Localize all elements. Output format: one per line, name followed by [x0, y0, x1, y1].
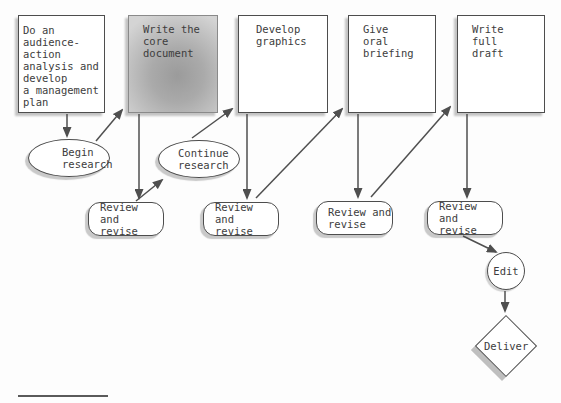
arrow-begin-research-to-write-core — [96, 110, 122, 141]
step-box-give-oral-briefing: Give oral briefing — [348, 15, 436, 113]
flowchart-figure: Do an audience- action analysis and deve… — [0, 0, 561, 403]
arrow-review-revise-2-to-give-briefing — [256, 109, 342, 198]
node-review-revise-4: Review and revise — [427, 201, 503, 235]
arrow-review-revise-4-to-edit — [463, 236, 496, 252]
node-label: Edit — [493, 265, 518, 277]
oval-continue-research: Continue research — [158, 140, 240, 178]
step-box-label: Write the core document — [143, 23, 203, 59]
oval-label: Continue research — [178, 147, 229, 171]
node-deliver: Deliver — [475, 315, 537, 377]
node-review-revise-3: Review and revise — [316, 201, 393, 235]
footnote-rule — [18, 395, 108, 397]
node-label: Review and revise — [439, 200, 502, 236]
oval-label: Begin research — [62, 146, 113, 170]
node-label: Review and revise — [328, 206, 391, 230]
node-review-revise-2: Review and revise — [203, 202, 279, 236]
arrow-review-revise-1-to-continue-research — [136, 180, 162, 201]
node-edit: Edit — [487, 252, 525, 290]
step-box-label: Write full draft — [472, 23, 530, 59]
arrow-review-revise-3-to-write-draft — [371, 107, 450, 197]
step-box-label: Develop graphics — [256, 23, 313, 47]
step-box-audience-analysis: Do an audience- action analysis and deve… — [18, 15, 105, 113]
step-box-write-full-draft: Write full draft — [457, 15, 545, 113]
step-box-label: Give oral briefing — [363, 23, 421, 59]
arrow-continue-research-to-develop-graphics — [192, 109, 232, 138]
oval-begin-research: Begin research — [28, 139, 110, 177]
step-box-label: Do an audience- action analysis and deve… — [23, 24, 100, 108]
node-label: Deliver — [484, 340, 528, 352]
node-label: Review and revise — [100, 201, 163, 237]
node-label: Review and revise — [215, 201, 278, 237]
step-box-write-core-document-highlighted: Write the core document — [128, 15, 218, 113]
step-box-develop-graphics: Develop graphics — [238, 15, 328, 113]
node-review-revise-1: Review and revise — [88, 202, 164, 236]
